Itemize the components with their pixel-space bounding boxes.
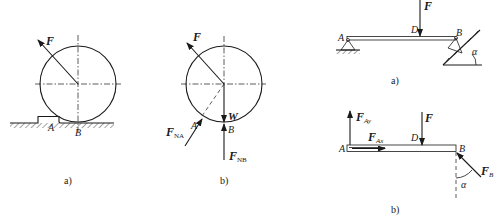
beam	[347, 37, 456, 41]
mechanics-diagram: F A B a) F A B W FNA FNB b)	[0, 0, 494, 224]
ground-hatch	[10, 123, 114, 128]
label-force-f: F	[192, 30, 201, 44]
label-force-f: F	[424, 111, 433, 125]
label-fb: FB	[480, 164, 494, 179]
label-point-a: A	[47, 122, 55, 133]
label-weight-w: W	[228, 110, 239, 122]
label-force-f: F	[423, 0, 432, 13]
caption-b: b)	[391, 204, 399, 216]
caption-a: a)	[391, 75, 399, 87]
label-point-a: A	[190, 120, 198, 131]
ground-step-outline	[10, 117, 114, 124]
label-angle-alpha: α	[461, 179, 467, 190]
label-point-b: B	[228, 124, 234, 135]
angle-arc	[456, 170, 472, 178]
label-point-a: A	[338, 143, 346, 154]
label-fay: FAy	[355, 110, 372, 125]
line-of-action-a	[202, 84, 224, 116]
caption-a: a)	[64, 175, 72, 187]
label-force-f: F	[45, 34, 54, 48]
label-angle-alpha: α	[472, 46, 478, 57]
figure-right-a: F D A B α a)	[336, 0, 482, 87]
label-point-a: A	[337, 32, 345, 43]
label-point-b: B	[75, 127, 81, 138]
figure-right-b: FAy FAx F D A B FB α b)	[338, 110, 494, 216]
label-fna: FNA	[165, 125, 184, 140]
label-point-b: B	[456, 27, 462, 38]
figure-left-a: F A B a)	[10, 34, 121, 187]
label-point-d: D	[410, 24, 419, 35]
label-point-b: B	[459, 143, 465, 154]
figure-left-b: F A B W FNA FNB b)	[165, 30, 266, 187]
caption-b: b)	[220, 175, 228, 187]
label-fnb: FNB	[228, 149, 247, 164]
label-fax: FAx	[367, 130, 384, 145]
label-point-d: D	[410, 132, 419, 143]
